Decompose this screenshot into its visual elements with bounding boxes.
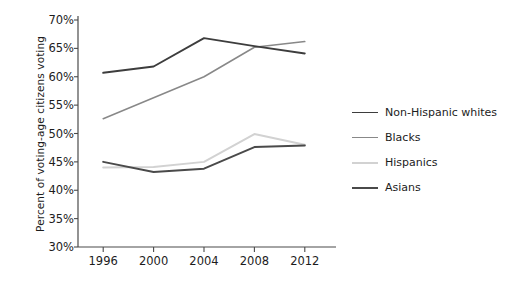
legend-swatch-icon [352, 137, 378, 138]
x-axis-tick-label: 2012 [275, 254, 335, 268]
series-line-non-hispanic-whites [103, 38, 305, 73]
legend-swatch-icon [352, 187, 378, 189]
chart-legend: Non-Hispanic whitesBlacksHispanicsAsians [352, 100, 520, 200]
legend-item[interactable]: Blacks [352, 125, 520, 150]
legend-swatch-icon [352, 112, 378, 113]
legend-item[interactable]: Asians [352, 175, 520, 200]
legend-label: Asians [385, 181, 421, 194]
legend-label: Blacks [385, 131, 421, 144]
legend-label: Non-Hispanic whites [385, 106, 497, 119]
legend-swatch-icon [352, 162, 378, 164]
chart-figure: Percent of voting-age citizens voting 30… [0, 0, 521, 281]
series-line-asians [103, 145, 305, 172]
series-line-blacks [103, 42, 305, 119]
legend-label: Hispanics [385, 156, 438, 169]
series-line-hispanics [103, 134, 305, 167]
legend-item[interactable]: Non-Hispanic whites [352, 100, 520, 125]
legend-item[interactable]: Hispanics [352, 150, 520, 175]
